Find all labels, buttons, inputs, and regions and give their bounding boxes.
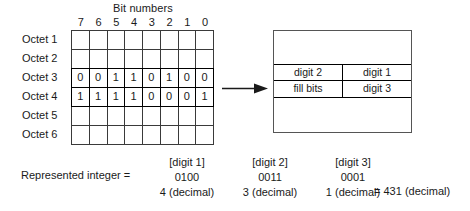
bit-number-label: 1 (179, 16, 197, 28)
bit-grid-row: 00110100 (72, 69, 214, 88)
bit-cell (125, 50, 143, 69)
bit-cell: 0 (72, 69, 90, 88)
bit-cell (143, 107, 161, 126)
represented-integer-label: Represented integer = (21, 169, 130, 181)
bit-grid-row (72, 126, 214, 145)
equation-binary-digit-1: 0100 (148, 170, 226, 185)
bit-cell (108, 126, 126, 145)
bit-grid-row (72, 107, 214, 126)
bit-cell: 1 (125, 88, 143, 107)
bit-cell: 1 (125, 69, 143, 88)
target-cell-fill-bits: fill bits (274, 81, 343, 97)
bit-cell (90, 107, 108, 126)
equation-column-digit-2: [digit 2] 0011 3 (decimal) (231, 155, 309, 200)
bit-number-label: 4 (125, 16, 143, 28)
bit-cell: 0 (161, 88, 179, 107)
equation-binary-digit-3: 0001 (314, 170, 392, 185)
bit-grid: 0011010011110001 (71, 30, 214, 145)
bit-cell: 0 (143, 69, 161, 88)
octet-label: Octet 4 (22, 87, 71, 106)
octet-label: Octet 6 (22, 125, 71, 144)
bit-cell (196, 126, 214, 145)
bit-grid-row (72, 31, 214, 50)
bit-cell (72, 107, 90, 126)
bit-cell (161, 50, 179, 69)
bit-numbers-header: 76543210 (72, 16, 214, 28)
bit-cell: 1 (108, 69, 126, 88)
target-cell-digit-2: digit 2 (274, 65, 343, 80)
bit-grid-row: 11110001 (72, 88, 214, 107)
bit-cell: 1 (196, 88, 214, 107)
bit-cell (72, 126, 90, 145)
target-cell-digit-3: digit 3 (343, 81, 411, 97)
octet-label: Octet 2 (22, 49, 71, 68)
bit-cell: 0 (143, 88, 161, 107)
bit-cell: 0 (179, 69, 197, 88)
diagram-canvas: Bit numbers 76543210 Octet 1Octet 2Octet… (0, 0, 470, 211)
equation-tag-digit-2: [digit 2] (231, 155, 309, 170)
bit-cell (72, 50, 90, 69)
bit-numbers-title: Bit numbers (72, 2, 214, 14)
bit-cell (161, 31, 179, 50)
bit-number-label: 7 (72, 16, 90, 28)
equation-binary-digit-2: 0011 (231, 170, 309, 185)
bit-cell: 0 (90, 69, 108, 88)
target-cell-digit-1: digit 1 (343, 65, 411, 80)
equation-tag-digit-1: [digit 1] (148, 155, 226, 170)
bit-cell (196, 107, 214, 126)
octet-label: Octet 5 (22, 106, 71, 125)
bit-cell: 0 (196, 69, 214, 88)
octet-label: Octet 1 (22, 30, 71, 49)
bit-cell (196, 31, 214, 50)
bit-cell (90, 50, 108, 69)
bit-cell (125, 126, 143, 145)
bit-number-label: 5 (108, 16, 126, 28)
bit-grid-row (72, 50, 214, 69)
target-box-top-space (274, 31, 411, 64)
bit-cell: 1 (108, 88, 126, 107)
target-octet-box: digit 2 digit 1 fill bits digit 3 (273, 30, 412, 133)
octet-label-column: Octet 1Octet 2Octet 3Octet 4Octet 5Octet… (22, 30, 71, 144)
equation-tag-digit-3: [digit 3] (314, 155, 392, 170)
bit-cell (143, 31, 161, 50)
equation-result: = 431 (decimal) (374, 185, 450, 197)
bit-cell: 1 (161, 69, 179, 88)
bit-cell (108, 50, 126, 69)
bit-cell (90, 31, 108, 50)
bit-cell (90, 126, 108, 145)
bit-number-label: 0 (196, 16, 214, 28)
bit-cell (161, 107, 179, 126)
bit-cell (179, 126, 197, 145)
rightwards-arrow-icon (222, 80, 270, 91)
bit-cell (179, 31, 197, 50)
bit-cell (179, 50, 197, 69)
bit-cell (108, 107, 126, 126)
bit-cell (179, 107, 197, 126)
bit-cell (143, 126, 161, 145)
bit-cell (108, 31, 126, 50)
bit-number-label: 3 (143, 16, 161, 28)
equation-decimal-digit-1: 4 (decimal) (148, 185, 226, 200)
octet-label: Octet 3 (22, 68, 71, 87)
bit-cell (143, 50, 161, 69)
bit-cell (72, 31, 90, 50)
equation-block: Represented integer = [digit 1] 0100 4 (… (0, 155, 470, 211)
bit-number-label: 6 (90, 16, 108, 28)
bit-cell (196, 50, 214, 69)
bit-cell: 0 (179, 88, 197, 107)
equation-column-digit-1: [digit 1] 0100 4 (decimal) (148, 155, 226, 200)
target-box-row-2: fill bits digit 3 (274, 81, 411, 98)
bit-cell (161, 126, 179, 145)
target-box-row-1: digit 2 digit 1 (274, 64, 411, 81)
bit-cell: 1 (72, 88, 90, 107)
equation-decimal-digit-2: 3 (decimal) (231, 185, 309, 200)
bit-number-label: 2 (161, 16, 179, 28)
bit-cell (125, 107, 143, 126)
bit-cell: 1 (90, 88, 108, 107)
bit-cell (125, 31, 143, 50)
